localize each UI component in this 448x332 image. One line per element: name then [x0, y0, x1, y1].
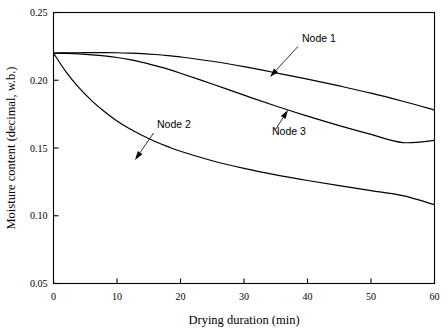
arrowhead-node-3 [281, 110, 288, 119]
x-tick-label-0: 0 [51, 291, 56, 302]
line-chart: 0102030405060 0.050.100.150.200.25 Node … [0, 0, 448, 332]
x-tick-label-40: 40 [303, 291, 313, 302]
y-axis-title: Moisture content (decimal, w.b.) [4, 66, 18, 229]
y-tick-label-0.25: 0.25 [30, 7, 48, 18]
x-tick-label-60: 60 [430, 291, 440, 302]
curve-node-2 [54, 53, 435, 204]
x-tick-label-20: 20 [176, 291, 186, 302]
series-label-node-2: Node 2 [157, 118, 191, 130]
y-tick-label-0.05: 0.05 [30, 278, 48, 289]
arrowhead-node-2 [135, 151, 142, 160]
leader-line-node-1 [276, 46, 298, 70]
series-label-node-1: Node 1 [302, 32, 336, 44]
data-series-curves [54, 53, 435, 205]
x-axis-title: Drying duration (min) [188, 313, 299, 327]
chart-figure: 0102030405060 0.050.100.150.200.25 Node … [0, 0, 448, 332]
series-label-node-3: Node 3 [272, 125, 306, 137]
x-tick-label-50: 50 [366, 291, 376, 302]
y-tick-label-0.15: 0.15 [30, 143, 48, 154]
curve-node-1 [54, 53, 435, 110]
x-axis-ticks [54, 279, 435, 284]
y-tick-label-0.10: 0.10 [30, 210, 48, 221]
series-annotations: Node 1Node 2Node 3 [135, 32, 336, 160]
x-tick-label-30: 30 [239, 291, 249, 302]
x-axis-tick-labels: 0102030405060 [51, 291, 440, 302]
y-tick-label-0.20: 0.20 [30, 75, 48, 86]
x-tick-label-10: 10 [112, 291, 122, 302]
y-axis-tick-labels: 0.050.100.150.200.25 [30, 7, 48, 289]
